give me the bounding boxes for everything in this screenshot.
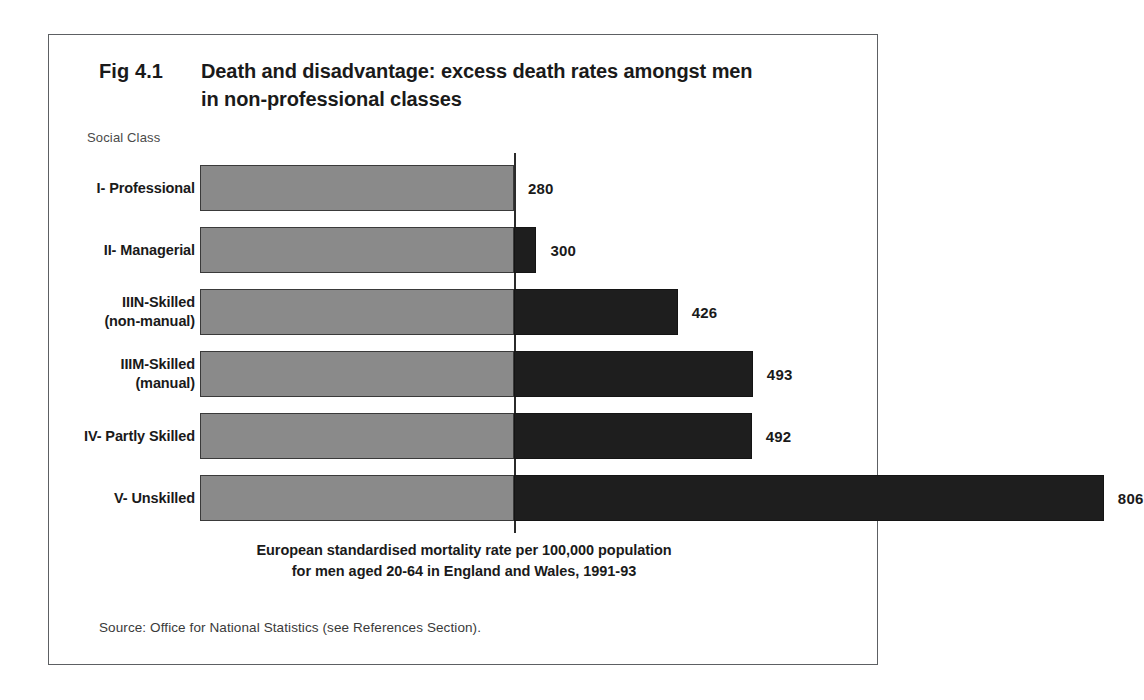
bar-baseline-segment bbox=[200, 475, 514, 521]
bar-value-label: 492 bbox=[766, 428, 792, 445]
figure-title-line-1: Death and disadvantage: excess death rat… bbox=[201, 57, 752, 85]
social-class-axis-caption: Social Class bbox=[87, 130, 160, 145]
category-label: II- Managerial bbox=[0, 241, 195, 260]
bar-baseline-segment bbox=[200, 165, 514, 211]
bar-baseline-segment bbox=[200, 289, 514, 335]
bar-baseline-segment bbox=[200, 413, 514, 459]
category-label: I- Professional bbox=[0, 179, 195, 198]
bar-excess-segment bbox=[514, 227, 536, 273]
bar-excess-segment bbox=[514, 413, 752, 459]
x-axis-title: European standardised mortality rate per… bbox=[49, 540, 879, 582]
bar-excess-segment bbox=[514, 351, 753, 397]
chart-plot-area: I- Professional280II- Managerial300IIIN-… bbox=[49, 153, 879, 533]
bar-value-label: 493 bbox=[767, 366, 793, 383]
bar-excess-segment bbox=[514, 289, 678, 335]
category-label: IIIN-Skilled (non-manual) bbox=[0, 293, 195, 330]
figure-frame: Fig 4.1 Death and disadvantage: excess d… bbox=[48, 34, 878, 665]
source-note: Source: Office for National Statistics (… bbox=[99, 620, 481, 635]
bar-baseline-segment bbox=[200, 351, 514, 397]
x-axis-title-line-2: for men aged 20-64 in England and Wales,… bbox=[49, 561, 879, 582]
figure-number: Fig 4.1 bbox=[99, 60, 201, 83]
bar-row: II- Managerial300 bbox=[49, 227, 879, 273]
bar-excess-segment bbox=[514, 475, 1104, 521]
bar-row: IIIN-Skilled (non-manual)426 bbox=[49, 289, 879, 335]
bar-row: IV- Partly Skilled492 bbox=[49, 413, 879, 459]
bar-row: V- Unskilled806 bbox=[49, 475, 879, 521]
bar-value-label: 426 bbox=[692, 304, 718, 321]
bar-value-label: 300 bbox=[550, 242, 576, 259]
bar-value-label: 280 bbox=[528, 180, 554, 197]
bar-value-label: 806 bbox=[1118, 490, 1144, 507]
bar-baseline-segment bbox=[200, 227, 514, 273]
figure-title-text: Death and disadvantage: excess death rat… bbox=[201, 57, 752, 114]
bar-row: IIIM-Skilled (manual)493 bbox=[49, 351, 879, 397]
bar-row: I- Professional280 bbox=[49, 165, 879, 211]
category-label: V- Unskilled bbox=[0, 489, 195, 508]
x-axis-title-line-1: European standardised mortality rate per… bbox=[49, 540, 879, 561]
figure-title-line-2: in non-professional classes bbox=[201, 85, 752, 113]
figure-title: Fig 4.1 Death and disadvantage: excess d… bbox=[99, 57, 839, 114]
category-label: IIIM-Skilled (manual) bbox=[0, 355, 195, 392]
category-label: IV- Partly Skilled bbox=[0, 427, 195, 446]
